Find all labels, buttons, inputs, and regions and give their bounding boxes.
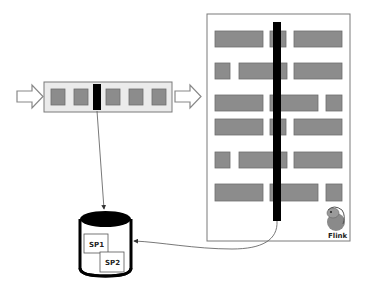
- output-arrow-icon: [175, 85, 201, 108]
- checkpoint-barrier: [93, 84, 101, 110]
- operator-task: [215, 152, 230, 168]
- data-stream: [44, 82, 172, 112]
- stream-record: [51, 89, 65, 105]
- operator-task: [294, 63, 342, 79]
- operator-task: [326, 95, 342, 111]
- operator-task: [215, 184, 263, 201]
- stream-record: [129, 89, 143, 105]
- squirrel-icon: [327, 207, 345, 231]
- operator-task: [215, 63, 230, 79]
- snapshot-sp2: SP2: [100, 252, 124, 272]
- input-arrow-icon: [17, 85, 43, 108]
- operator-task: [294, 152, 342, 168]
- stream-record: [152, 89, 166, 105]
- operator-task: [215, 95, 263, 111]
- operator-task: [215, 119, 263, 135]
- snapshot-sp1: SP1: [84, 234, 108, 253]
- snapshot-connector: [97, 111, 104, 209]
- checkpoint-barrier-operators: [273, 22, 281, 221]
- flink-logo-label: Flink: [328, 232, 348, 240]
- operator-task: [294, 31, 342, 47]
- checkpoint-diagram: Flink SP1 SP2: [0, 0, 367, 289]
- snapshot-sp1-label: SP1: [89, 241, 104, 249]
- stream-record: [74, 89, 88, 105]
- operator-task: [326, 184, 342, 201]
- operator-task: [215, 31, 263, 47]
- stream-record: [106, 89, 120, 105]
- operator-task: [294, 119, 342, 135]
- operator-panel: Flink: [207, 14, 350, 241]
- snapshot-sp2-label: SP2: [105, 259, 120, 267]
